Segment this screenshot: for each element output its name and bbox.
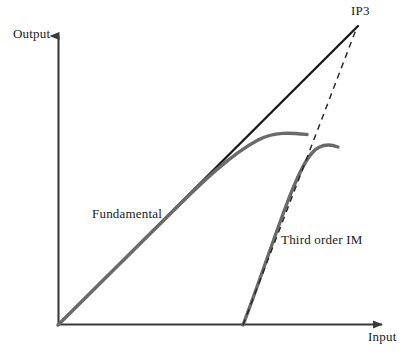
fundamental-measured-curve	[58, 133, 307, 325]
fundamental-label: Fundamental	[92, 206, 162, 222]
plot-area	[0, 0, 420, 359]
y-axis-label: Output	[13, 26, 50, 42]
ip3-diagram: Output Input IP3 Fundamental Third order…	[0, 0, 420, 359]
third-order-extrapolation-dashed	[243, 27, 357, 325]
third-order-im-label: Third order IM	[281, 232, 363, 248]
ip3-label: IP3	[351, 3, 370, 19]
x-axis-label: Input	[368, 329, 396, 345]
